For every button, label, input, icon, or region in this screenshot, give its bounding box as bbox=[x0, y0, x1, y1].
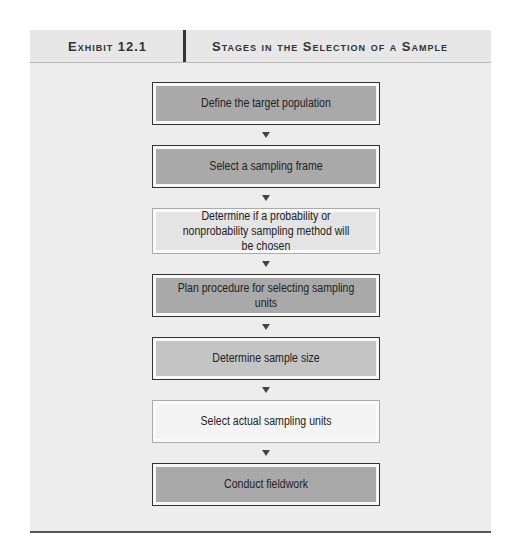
step-fill: Plan procedure for selecting sampling un… bbox=[156, 278, 376, 313]
step-fill: Select actual sampling units bbox=[156, 404, 376, 439]
step-box-7: Conduct fieldwork bbox=[152, 463, 380, 506]
step-fill: Select a sampling frame bbox=[156, 149, 376, 184]
step-label: Select a sampling frame bbox=[169, 149, 363, 184]
step-box-2: Select a sampling frame bbox=[152, 145, 380, 188]
down-arrow-icon bbox=[152, 125, 380, 145]
step-label: Select actual sampling units bbox=[169, 404, 363, 439]
step-fill: Determine sample size bbox=[156, 341, 376, 376]
step-fill: Conduct fieldwork bbox=[156, 467, 376, 502]
bottom-rule bbox=[30, 531, 491, 533]
step-box-4: Plan procedure for selecting sampling un… bbox=[152, 274, 380, 317]
down-arrow-icon bbox=[152, 443, 380, 463]
exhibit-number: Exhibit 12.1 bbox=[68, 39, 147, 54]
step-box-3: Determine if a probability or nonprobabi… bbox=[152, 208, 380, 254]
exhibit-header: Exhibit 12.1 Stages in the Selection of … bbox=[30, 30, 491, 63]
down-arrow-icon bbox=[152, 380, 380, 400]
step-label: Determine sample size bbox=[169, 341, 363, 376]
step-label: Conduct fieldwork bbox=[169, 467, 363, 502]
step-label: Determine if a probability or nonprobabi… bbox=[169, 212, 363, 250]
step-box-1: Define the target population bbox=[152, 82, 380, 125]
step-box-6: Select actual sampling units bbox=[152, 400, 380, 443]
step-box-5: Determine sample size bbox=[152, 337, 380, 380]
header-divider bbox=[183, 30, 186, 62]
step-label: Define the target population bbox=[169, 86, 363, 121]
down-arrow-icon bbox=[152, 188, 380, 208]
down-arrow-icon bbox=[152, 317, 380, 337]
down-arrow-icon bbox=[152, 254, 380, 274]
exhibit-panel: Exhibit 12.1 Stages in the Selection of … bbox=[30, 30, 491, 533]
flowchart: Define the target population Select a sa… bbox=[152, 82, 380, 506]
step-label: Plan procedure for selecting sampling un… bbox=[169, 278, 363, 313]
step-fill: Determine if a probability or nonprobabi… bbox=[156, 212, 376, 250]
step-fill: Define the target population bbox=[156, 86, 376, 121]
exhibit-title: Stages in the Selection of a Sample bbox=[212, 39, 448, 54]
